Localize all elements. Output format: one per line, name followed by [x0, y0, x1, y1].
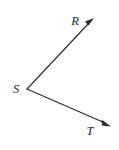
angle-diagram-canvas: R S T	[0, 0, 119, 150]
diagram-background	[0, 0, 119, 150]
angle-diagram-svg: R S T	[0, 0, 119, 150]
label-point-r: R	[70, 14, 79, 28]
label-point-t: T	[87, 124, 95, 138]
label-point-s: S	[13, 82, 20, 96]
